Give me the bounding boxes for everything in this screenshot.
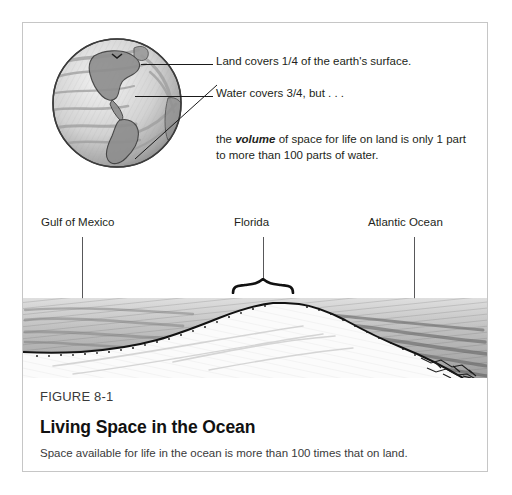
figure-page: Land covers 1/4 of the earth's surface. … [0,0,512,495]
label-atlantic-ocean: Atlantic Ocean [368,216,443,228]
pointer-line-florida [263,237,264,279]
callout-volume-comparison: the volume of space for life on land is … [216,131,466,163]
leader-line-volume [133,83,218,161]
pointer-line-atlantic [414,237,415,299]
figure-description: Space available for life in the ocean is… [40,447,408,459]
callout-land-coverage: Land covers 1/4 of the earth's surface. [216,54,411,69]
ocean-cross-section-region: Gulf of Mexico Florida Atlantic Ocean [23,208,488,378]
figure-title: Living Space in the Ocean [40,417,255,438]
leader-line-land [141,64,213,65]
figure-frame: Land covers 1/4 of the earth's surface. … [22,22,488,472]
brace-florida [231,278,295,294]
callout-volume-prefix: the [216,133,235,145]
pointer-line-gulf [82,237,83,299]
globe-illustration-region: Land covers 1/4 of the earth's surface. … [23,23,488,208]
figure-caption-block: FIGURE 8-1 Living Space in the Ocean Spa… [23,381,488,472]
figure-number: FIGURE 8-1 [40,389,114,404]
label-florida: Florida [234,216,269,228]
callout-volume-emphasis: volume [235,133,275,145]
label-gulf-of-mexico: Gulf of Mexico [41,216,115,228]
seafloor-profile-illustration [23,296,488,378]
callout-water-coverage: Water covers 3/4, but . . . [216,86,344,101]
